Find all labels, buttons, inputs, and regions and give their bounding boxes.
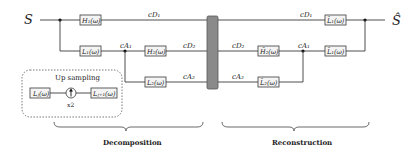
filter-l2t-label: L̃₂(ω) [259, 78, 278, 86]
signal-cd1-decomp: cD₁ [148, 11, 161, 19]
decomposition-caption: Decomposition [103, 138, 162, 147]
filter-h1-label: H₁(ω) [81, 17, 101, 25]
upsampling-input-label: Lⱼ(ω) [32, 90, 50, 98]
output-signal-label: Ŝ [392, 12, 401, 28]
wire-l2t-to-ca1 [279, 51, 303, 82]
filter-l1-label: L₁(ω) [81, 48, 100, 56]
signal-cd1-recon: cD₁ [300, 11, 313, 19]
wire-to-l1 [60, 20, 80, 51]
filter-h2t-label: H̃₂(ω) [259, 47, 279, 55]
reconstruction-brace [222, 122, 369, 131]
upsampling-title: Up sampling [55, 74, 100, 82]
wire-l1t-to-output [346, 20, 365, 51]
signal-cd2-decomp: cD₂ [183, 42, 196, 50]
wire-to-l2 [125, 51, 145, 82]
filter-l2-label: L₂(ω) [146, 79, 165, 87]
signal-cd2-recon: cD₂ [232, 42, 245, 50]
input-signal-label: S [24, 12, 33, 27]
reconstruction-caption: Reconstruction [272, 138, 332, 147]
upsampling-factor: x2 [67, 101, 74, 108]
filter-l1t-top-label: L̃₁(ω) [326, 16, 345, 24]
upsampling-output-label: Lⱼ₊₁(ω) [92, 90, 116, 98]
signal-ca2-decomp: cA₂ [183, 73, 195, 81]
center-bar [207, 16, 218, 89]
filter-h2-label: H₂(ω) [146, 48, 166, 56]
wavelet-diagram: S H₁(ω) L₁(ω) cD₁ cA₁ H₂(ω) cD₂ L₂(ω) cA… [0, 0, 415, 155]
decomposition-brace [54, 122, 203, 131]
signal-ca1-recon: cA₁ [298, 42, 310, 50]
signal-ca2-recon: cA₂ [232, 73, 244, 81]
filter-l1t-mid-label: L̃₁(ω) [326, 47, 345, 55]
signal-ca1-decomp: cA₁ [120, 42, 132, 50]
